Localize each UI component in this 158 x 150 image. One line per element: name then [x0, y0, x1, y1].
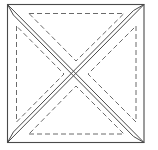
dashed-triangle-top [29, 14, 124, 62]
dashed-triangle-left [17, 26, 65, 122]
quilt-block-svg [0, 0, 158, 150]
dashed-triangle-right [88, 26, 136, 122]
quilt-block-diagram [0, 0, 158, 150]
dashed-triangle-bottom [29, 86, 124, 134]
solid-lines [8, 5, 145, 143]
